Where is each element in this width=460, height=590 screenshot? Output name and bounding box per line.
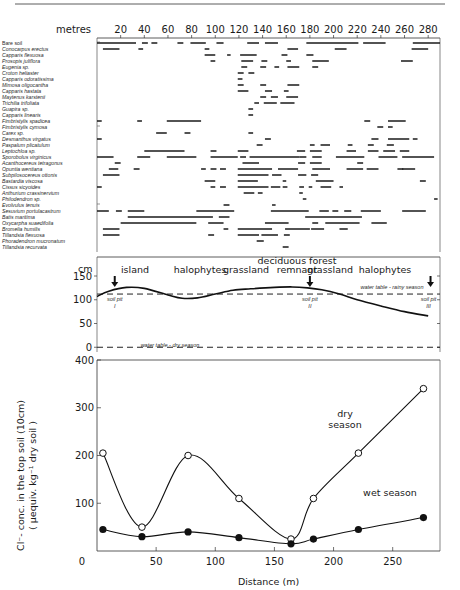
wet-season-line bbox=[103, 518, 424, 544]
zone-label-halophytes: halophytes bbox=[174, 264, 227, 275]
dry-season-point bbox=[236, 495, 243, 502]
profile-chart: cm050100150islandhalophytesgrasslanddeci… bbox=[73, 255, 440, 353]
veg-x-tick-label: 100 bbox=[206, 24, 225, 35]
chloride-x-axis-label: Distance (m) bbox=[238, 576, 299, 587]
profile-y-tick-label: 150 bbox=[73, 271, 92, 282]
wet-season-label: wet season bbox=[363, 487, 417, 498]
chloride-chart: 010020030040050100150200250Distance (m)C… bbox=[15, 355, 440, 588]
profile-y-tick-label: 100 bbox=[73, 294, 92, 305]
wet-season-point bbox=[99, 526, 106, 533]
veg-x-tick-label: 160 bbox=[277, 24, 296, 35]
species-label: Tillandsia recurvata bbox=[2, 244, 47, 250]
veg-x-tick-label: 260 bbox=[395, 24, 414, 35]
soil-pit-label-1: soil pit bbox=[107, 296, 123, 302]
zone-label-grassland-2: grassland bbox=[307, 264, 353, 275]
dry-season-label-line1: dry bbox=[337, 408, 353, 419]
profile-y-tick-label: 50 bbox=[79, 318, 92, 329]
wet-season-point bbox=[355, 526, 362, 533]
soil-pit-arrowhead-3 bbox=[427, 282, 434, 287]
vegetation-chart: metres2040608010012014016018020022024026… bbox=[1, 24, 440, 252]
veg-x-tick-label: 20 bbox=[114, 24, 127, 35]
wet-season-point bbox=[420, 514, 427, 521]
soil-pit-numeral-2: II bbox=[308, 303, 312, 309]
soil-pit-label-3: soil pit bbox=[421, 296, 437, 302]
soil-pit-arrowhead-2 bbox=[306, 282, 313, 287]
wet-season-point bbox=[287, 540, 294, 547]
veg-x-tick-label: 280 bbox=[419, 24, 438, 35]
dry-season-point bbox=[355, 450, 362, 457]
veg-x-tick-label: 240 bbox=[371, 24, 390, 35]
profile-y-tick-label: 0 bbox=[86, 342, 92, 353]
chloride-x-tick-label: 100 bbox=[206, 556, 225, 567]
dry-season-point bbox=[100, 450, 107, 457]
chloride-y-axis-label-line2: ( µequiv. kg⁻¹ dry soil ) bbox=[27, 421, 38, 530]
chloride-x-tick-label: 200 bbox=[324, 556, 343, 567]
ground-surface-line bbox=[97, 287, 428, 316]
water-table-rainy-label: water table - rainy season bbox=[361, 284, 424, 290]
chloride-x-tick-label: 150 bbox=[265, 556, 284, 567]
wet-season-point bbox=[138, 533, 145, 540]
dry-season-point bbox=[139, 524, 146, 531]
veg-x-tick-label: 120 bbox=[229, 24, 248, 35]
soil-pit-numeral-1: I bbox=[114, 303, 116, 309]
soil-pit-arrowhead-1 bbox=[111, 282, 118, 287]
wet-season-point bbox=[310, 535, 317, 542]
dry-season-point bbox=[310, 495, 317, 502]
soil-pit-numeral-3: III bbox=[426, 303, 431, 309]
dry-season-point bbox=[185, 452, 192, 459]
chloride-y-tick-label: 400 bbox=[75, 355, 94, 366]
zone-label-island: island bbox=[121, 264, 149, 275]
chloride-y-axis-label-line1: Cl⁻- conc. in the top soil (10cm) bbox=[15, 400, 26, 551]
figure: metres2040608010012014016018020022024026… bbox=[0, 0, 460, 590]
veg-x-tick-label: 140 bbox=[253, 24, 272, 35]
dry-season-line bbox=[103, 389, 424, 539]
veg-x-tick-label: 80 bbox=[185, 24, 198, 35]
chloride-x-tick-label: 250 bbox=[383, 556, 402, 567]
zone-label-halophytes-2: halophytes bbox=[359, 264, 412, 275]
dry-season-label-line2: season bbox=[328, 419, 361, 430]
veg-x-tick-label: 60 bbox=[162, 24, 175, 35]
wet-season-point bbox=[184, 528, 191, 535]
chloride-y-tick-label: 100 bbox=[75, 498, 94, 509]
dry-season-point bbox=[420, 385, 427, 392]
chloride-x-tick-label: 50 bbox=[150, 556, 163, 567]
veg-x-tick-label: 40 bbox=[138, 24, 151, 35]
veg-x-tick-label: 200 bbox=[324, 24, 343, 35]
water-table-dry-label: water table - dry season bbox=[141, 342, 200, 348]
chloride-y-tick-label: 300 bbox=[75, 402, 94, 413]
veg-x-tick-label: 180 bbox=[300, 24, 319, 35]
veg-x-axis-label: metres bbox=[56, 24, 91, 35]
wet-season-point bbox=[235, 534, 242, 541]
soil-pit-label-2: soil pit bbox=[302, 296, 318, 302]
veg-x-tick-label: 220 bbox=[348, 24, 367, 35]
chloride-y-tick-label: 0 bbox=[79, 556, 85, 567]
chloride-y-tick-label: 200 bbox=[75, 450, 94, 461]
